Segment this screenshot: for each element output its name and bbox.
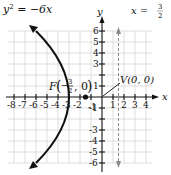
x-tick-labels: -8 -7 -6 -5 -4 -3 -2 -1 1 2 3 4 [7,100,149,112]
focus-point [83,94,88,99]
svg-text:2: 2 [158,12,162,20]
y-axis-label: y [96,6,103,17]
svg-text:): ) [87,78,92,94]
parabola-diagram: y2 = −6x x = 3 2 y x F ( − 3 2 , 0 ) V(0… [0,0,171,175]
svg-text:3: 3 [158,3,162,11]
svg-text:4: 4 [93,48,99,58]
x-axis-arrow-icon [152,95,159,100]
svg-text:1: 1 [110,100,116,110]
svg-text:-5: -5 [40,100,49,110]
y-axis-arrow-icon [100,16,105,23]
x-axis-label: x [162,91,168,102]
svg-text:-2: -2 [73,100,82,110]
vertex-pointer [103,83,120,96]
svg-text:-4: -4 [51,100,60,110]
svg-text:x =: x = [131,5,148,16]
vertex-label: V(0, 0) [120,74,154,85]
svg-text:3: 3 [93,59,99,69]
svg-text:1: 1 [93,81,99,91]
svg-text:6: 6 [93,26,99,36]
equation-label: y2 = −6x [2,3,53,16]
svg-text:-3: -3 [62,100,71,110]
svg-text:, 0: , 0 [74,80,88,93]
svg-text:-4: -4 [89,136,98,146]
svg-text:-5: -5 [89,147,98,157]
svg-text:4: 4 [143,100,149,110]
svg-text:-6: -6 [29,100,38,110]
svg-text:5: 5 [93,37,99,47]
svg-text:-6: -6 [89,158,98,168]
directrix-label: x = 3 2 [131,3,163,20]
svg-text:-3: -3 [89,125,98,135]
svg-text:-8: -8 [7,100,16,110]
svg-text:2: 2 [121,100,127,110]
svg-text:3: 3 [132,100,138,110]
svg-text:2: 2 [68,87,72,95]
focus-label: F ( − 3 2 , 0 ) [48,78,92,95]
svg-text:-7: -7 [18,100,27,110]
svg-text:3: 3 [68,78,72,86]
svg-text:-1: -1 [89,103,98,113]
